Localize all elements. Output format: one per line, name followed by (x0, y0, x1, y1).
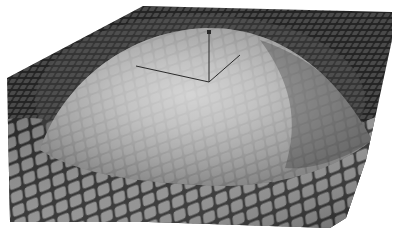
mesh-surface-render (0, 0, 394, 234)
